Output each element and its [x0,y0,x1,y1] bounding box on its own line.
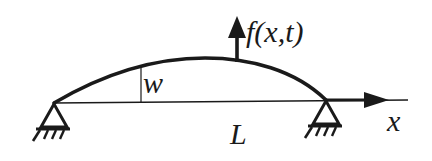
beam-diagram: f(x,t) w L x [0,0,432,161]
x-axis-arrow-icon [364,92,389,108]
force-arrow-icon [228,16,246,38]
right-pin-support-icon [305,101,342,138]
deflected-beam-curve [54,58,326,103]
length-label: L [229,117,247,150]
force-label: f(x,t) [246,15,303,49]
left-pin-support-icon [33,104,70,141]
deflection-label: w [143,66,163,99]
x-axis-label: x [386,104,401,137]
